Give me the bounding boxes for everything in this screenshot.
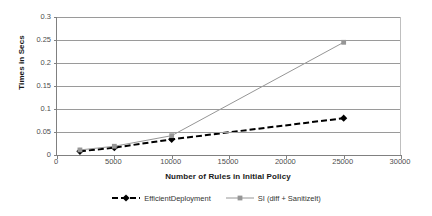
x-axis-tick-label: 15000 — [206, 158, 250, 166]
chart-container: Times in Secs 00.050.10.150.20.250.3 050… — [0, 0, 432, 216]
x-axis-tick-labels: 050001000015000200002500030000 — [56, 158, 400, 170]
y-axis-tickmark — [54, 40, 57, 41]
plot-area — [56, 17, 401, 156]
y-axis-tickmark — [54, 132, 57, 133]
legend-marker-icon — [111, 193, 141, 203]
legend-marker-icon — [225, 193, 255, 203]
data-series — [78, 40, 347, 152]
y-axis-tickmark — [54, 86, 57, 87]
data-point-marker — [169, 133, 174, 138]
x-axis-tick-label: 30000 — [378, 158, 422, 166]
y-axis-tickmark — [54, 63, 57, 64]
y-axis-tickmark — [54, 17, 57, 18]
data-point-marker — [78, 148, 83, 153]
y-axis-tickmark — [54, 109, 57, 110]
y-axis-tick-label: 0.25 — [21, 36, 51, 44]
x-axis-title: Number of Rules in Initial Policy — [56, 172, 400, 181]
gridline-horizontal — [57, 63, 401, 64]
series-line — [80, 42, 344, 150]
x-axis-tick-label: 20000 — [263, 158, 307, 166]
x-axis-tick-label: 5000 — [91, 158, 135, 166]
legend-entry: SI (diff + Sanitizelt) — [225, 193, 321, 203]
legend-label: SI (diff + Sanitizelt) — [258, 194, 321, 203]
legend-label: EfficientDeployment — [144, 194, 211, 203]
gridline-horizontal — [57, 109, 401, 110]
series-line — [80, 118, 344, 151]
y-axis-tick-labels: 00.050.10.150.20.250.3 — [18, 0, 51, 216]
gridline-horizontal — [57, 86, 401, 87]
data-point-marker — [112, 144, 117, 149]
x-axis-tick-label: 10000 — [149, 158, 193, 166]
data-series — [76, 115, 347, 155]
legend-entry: EfficientDeployment — [111, 193, 211, 203]
data-point-marker — [340, 115, 347, 122]
gridline-horizontal — [57, 40, 401, 41]
gridline-horizontal — [57, 17, 401, 18]
x-axis-tick-label: 25000 — [321, 158, 365, 166]
y-axis-tick-label: 0.2 — [21, 59, 51, 67]
y-axis-tick-label: 0.05 — [21, 128, 51, 136]
chart-legend: EfficientDeploymentSI (diff + Sanitizelt… — [0, 193, 432, 203]
x-axis-tick-label: 0 — [34, 158, 78, 166]
y-axis-tick-label: 0.1 — [21, 105, 51, 113]
plot-right-border — [400, 17, 401, 155]
y-axis-tick-label: 0.15 — [21, 82, 51, 90]
y-axis-tick-label: 0.3 — [21, 13, 51, 21]
gridline-horizontal — [57, 132, 401, 133]
